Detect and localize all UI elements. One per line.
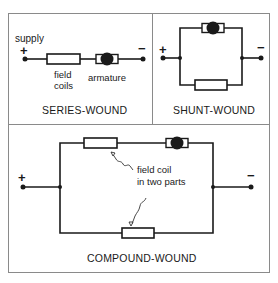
compound-wound-title: COMPOUND-WOUND bbox=[87, 252, 197, 264]
series-circuit bbox=[25, 54, 143, 64]
arrowhead-hollow-icon bbox=[111, 152, 115, 156]
series-plus-sign: + bbox=[20, 44, 28, 57]
shunt-plus-sign: + bbox=[159, 43, 167, 56]
field-coil-icon bbox=[47, 54, 80, 64]
compound-circuit bbox=[23, 138, 251, 238]
compound-plus-terminal-icon bbox=[21, 185, 26, 190]
series-minus-terminal-icon bbox=[141, 57, 146, 62]
compound-plus-sign: + bbox=[18, 171, 26, 184]
annotation-line2: in two parts bbox=[137, 176, 186, 187]
junction-icon bbox=[240, 56, 244, 60]
junction-icon bbox=[178, 56, 182, 60]
leader-line-lower bbox=[132, 198, 146, 224]
series-armature-icon bbox=[96, 53, 118, 66]
series-wound-title: SERIES-WOUND bbox=[42, 104, 127, 116]
shunt-minus-terminal-icon bbox=[259, 56, 264, 61]
armature-label: armature bbox=[88, 72, 126, 83]
shunt-wound-title: SHUNT-WOUND bbox=[173, 104, 255, 116]
annotation-line1: field coil bbox=[137, 164, 171, 175]
compound-minus-sign: − bbox=[247, 169, 255, 182]
shunt-circuit bbox=[163, 28, 261, 90]
compound-minus-terminal-icon bbox=[249, 185, 254, 190]
compound-armature-icon bbox=[166, 137, 188, 150]
field-coils-label-line1: field bbox=[54, 69, 71, 80]
field-coil-part1-icon bbox=[84, 138, 117, 148]
junction-icon bbox=[58, 185, 62, 189]
leader-line-upper bbox=[112, 153, 133, 170]
series-minus-sign: − bbox=[138, 42, 146, 55]
shunt-armature-icon bbox=[202, 22, 224, 35]
arrowhead-hollow-icon bbox=[129, 222, 133, 226]
field-coil-part2-icon bbox=[122, 228, 154, 238]
shunt-field-coil-icon bbox=[195, 80, 227, 90]
junction-icon bbox=[211, 185, 215, 189]
shunt-minus-sign: − bbox=[257, 41, 265, 54]
field-coils-label-line2: coils bbox=[54, 80, 73, 91]
